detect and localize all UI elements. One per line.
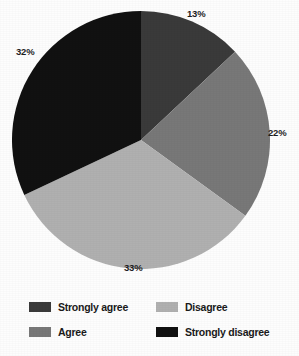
pie-slice-group bbox=[12, 11, 270, 269]
legend-swatch-icon bbox=[156, 302, 178, 312]
legend-item-agree[interactable]: Agree bbox=[29, 327, 87, 338]
legend-swatch-icon bbox=[29, 302, 51, 312]
slice-percent-label-strongly-disagree: 32% bbox=[16, 47, 34, 57]
pie-chart: 13% 22% 33% 32% bbox=[0, 0, 299, 288]
legend-item-label: Agree bbox=[58, 327, 87, 338]
legend-swatch-icon bbox=[29, 327, 51, 337]
legend-item-label: Strongly agree bbox=[58, 302, 128, 313]
slice-percent-label-disagree: 33% bbox=[124, 263, 142, 273]
slice-percent-label-agree: 22% bbox=[268, 128, 286, 138]
legend-item-label: Disagree bbox=[185, 302, 227, 313]
legend-item-disagree[interactable]: Disagree bbox=[156, 302, 227, 313]
chart-legend: Strongly agree Disagree Agree Strongly d… bbox=[29, 299, 279, 351]
legend-swatch-icon bbox=[156, 327, 178, 337]
pie-chart-svg bbox=[0, 0, 299, 288]
legend-item-strongly-agree[interactable]: Strongly agree bbox=[29, 302, 128, 313]
slice-percent-label-strongly-agree: 13% bbox=[187, 9, 205, 19]
legend-item-label: Strongly disagree bbox=[185, 327, 269, 338]
legend-item-strongly-disagree[interactable]: Strongly disagree bbox=[156, 327, 269, 338]
